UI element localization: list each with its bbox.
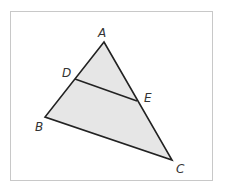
triangle-abc [45, 42, 172, 160]
label-e: E [144, 91, 152, 105]
label-d: D [62, 66, 71, 80]
label-b: B [35, 120, 43, 134]
label-a: A [97, 26, 106, 40]
label-c: C [176, 162, 185, 176]
triangle-diagram: A B C D E [0, 0, 227, 193]
